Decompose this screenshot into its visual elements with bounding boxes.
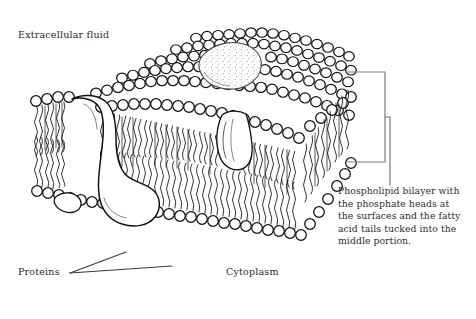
bracket-to-caption (348, 72, 390, 185)
label-proteins: Proteins (18, 267, 60, 278)
transmembrane-channel-protein (217, 111, 252, 170)
label-cytoplasm: Cytoplasm (226, 267, 279, 278)
left-transmembrane-protein (72, 95, 159, 225)
caption-line: acid tails tucked into the (338, 223, 472, 236)
label-extracellular-fluid: Extracellular fluid (18, 30, 109, 41)
caption-line: the surfaces and the fatty (338, 210, 472, 223)
figure-canvas: Extracellular fluid Proteins Cytoplasm P… (0, 0, 476, 319)
extracellular-head-layer (31, 28, 357, 143)
caption-line: middle portion. (338, 235, 472, 248)
caption-line: Phospholipid bilayer with (338, 185, 472, 198)
left-cut-face (35, 102, 65, 190)
bilayer-caption: Phospholipid bilayer with the phosphate … (338, 185, 472, 248)
peripheral-protein (54, 193, 81, 213)
proteins-leader-lines (70, 252, 172, 273)
caption-line: the phosphate heads at (338, 198, 472, 211)
